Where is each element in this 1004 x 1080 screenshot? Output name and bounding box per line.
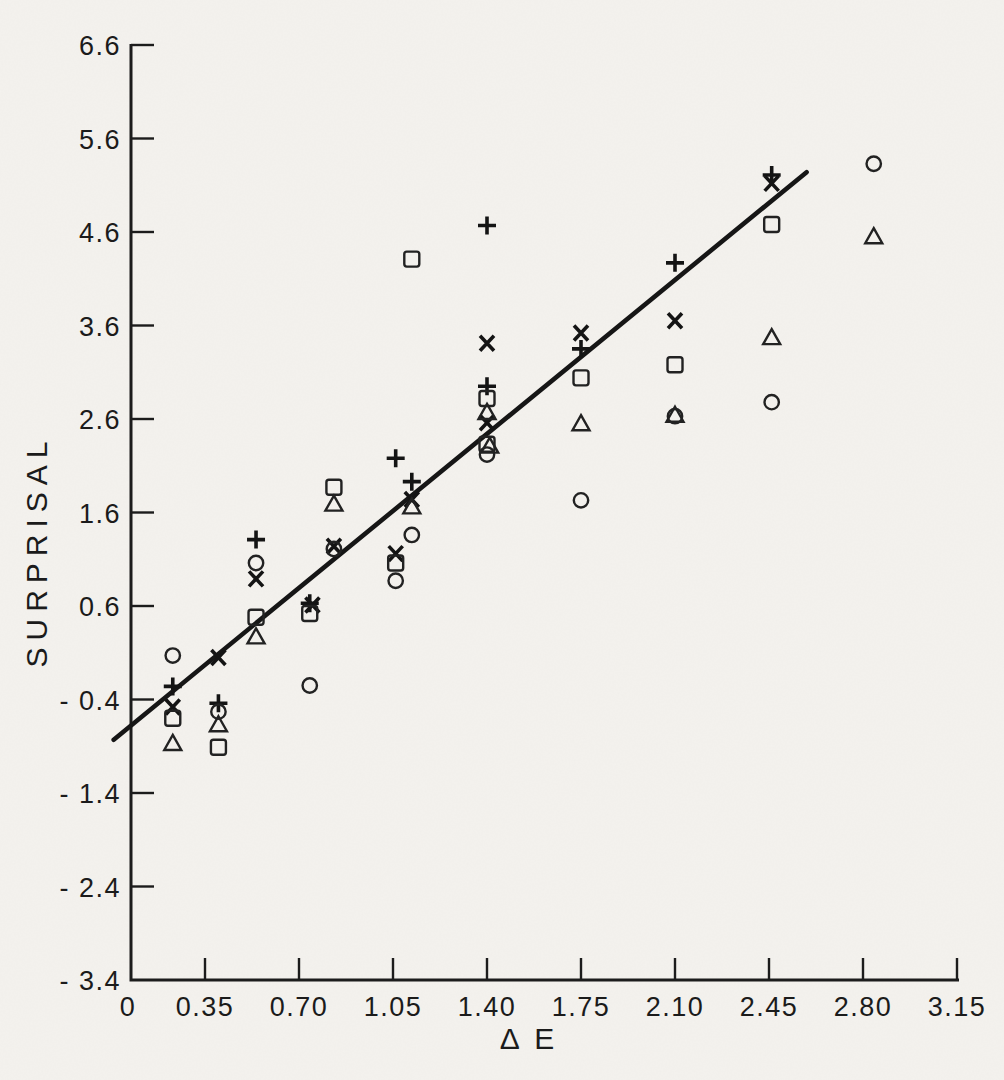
x-tick-label: 2.10 <box>646 992 705 1022</box>
scan-grain-texture <box>0 0 1004 1080</box>
y-tick-label: 0.6 <box>79 592 121 622</box>
y-tick-label: 1.6 <box>79 499 121 529</box>
y-tick-label: 4.6 <box>79 218 121 248</box>
x-axis-title: Δ E <box>500 1022 559 1055</box>
scanned-figure-page: 6.65.64.63.62.61.60.6- 0.4- 1.4- 2.4- 3.… <box>0 0 1004 1080</box>
x-tick-label: 2.45 <box>740 992 799 1022</box>
y-tick-label: - 1.4 <box>59 779 121 809</box>
y-tick-label: - 2.4 <box>59 873 121 903</box>
y-tick-label: - 3.4 <box>59 966 121 996</box>
x-tick-label: 1.40 <box>458 992 517 1022</box>
y-axis-title: SURPRISAL <box>20 434 53 667</box>
x-tick-label: 1.75 <box>552 992 611 1022</box>
x-tick-label: 2.80 <box>834 992 893 1022</box>
surprisal-scatter-plot: 6.65.64.63.62.61.60.6- 0.4- 1.4- 2.4- 3.… <box>0 0 1004 1080</box>
x-tick-label: 1.05 <box>364 992 423 1022</box>
y-tick-label: 3.6 <box>79 312 121 342</box>
y-tick-label: - 0.4 <box>59 686 121 716</box>
x-tick-label: 0.35 <box>176 992 235 1022</box>
x-tick-label: 0 <box>120 992 137 1022</box>
y-tick-label: 6.6 <box>79 31 121 61</box>
x-tick-label: 3.15 <box>928 992 987 1022</box>
x-tick-label: 0.70 <box>270 992 329 1022</box>
y-tick-label: 5.6 <box>79 125 121 155</box>
y-tick-label: 2.6 <box>79 405 121 435</box>
